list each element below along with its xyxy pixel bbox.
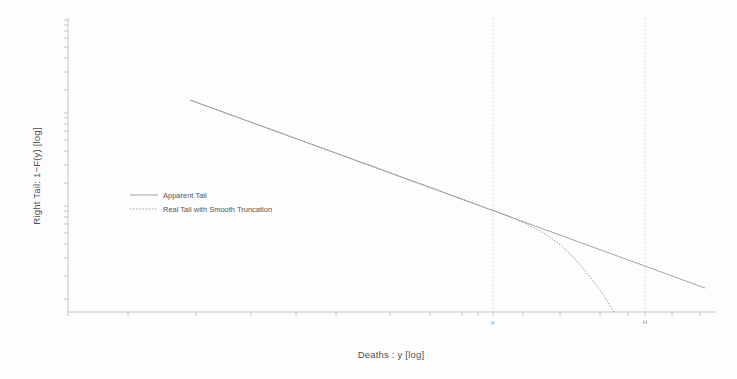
chart-background	[0, 0, 737, 379]
x-axis-title: Deaths : y [log]	[358, 349, 425, 360]
tail-distribution-chart: μ H Deaths : y [log] Right Tail: 1−F(y) …	[0, 0, 737, 379]
x-tick-label-h: H	[643, 319, 647, 325]
x-tick-label-mu: μ	[491, 319, 495, 325]
y-axis-title: Right Tail: 1−F(y) [log]	[31, 127, 42, 224]
chart-figure: μ H Deaths : y [log] Right Tail: 1−F(y) …	[0, 0, 737, 379]
legend-label-real-tail: Real Tail with Smooth Truncation	[163, 205, 272, 214]
legend-label-apparent-tail: Apparent Tail	[163, 191, 207, 200]
